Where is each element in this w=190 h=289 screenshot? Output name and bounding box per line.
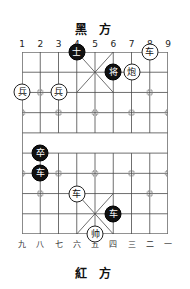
piece-glyph: 帅 (91, 230, 100, 239)
coordinate-label: 二 (146, 239, 154, 251)
piece-glyph: 车 (109, 209, 118, 218)
coordinate-label: 3 (56, 38, 62, 50)
piece-glyph: 车 (145, 48, 154, 57)
red-general[interactable]: 帅 (87, 226, 104, 243)
coordinate-label: 三 (128, 239, 136, 251)
piece-glyph: 炮 (127, 68, 136, 77)
red-side-title: 紅 方 (0, 264, 190, 281)
piece-glyph: 车 (36, 169, 45, 178)
black-chariot-1[interactable]: 车 (32, 165, 49, 182)
coordinate-label: 九 (18, 239, 26, 251)
piece-glyph: 兵 (18, 88, 27, 97)
coordinate-label: 2 (37, 38, 43, 50)
red-chariot-1[interactable]: 车 (141, 44, 158, 61)
black-general[interactable]: 将 (105, 64, 122, 81)
coordinate-label: 9 (165, 38, 171, 50)
red-soldier-2[interactable]: 兵 (50, 84, 67, 101)
black-chariot-2[interactable]: 车 (105, 205, 122, 222)
red-chariot-2[interactable]: 车 (68, 185, 85, 202)
coordinate-label: 八 (36, 239, 44, 251)
red-cannon[interactable]: 炮 (123, 64, 140, 81)
piece-glyph: 士 (72, 48, 81, 57)
black-soldier[interactable]: 卒 (32, 145, 49, 162)
coordinate-label: 1 (19, 38, 25, 50)
red-soldier-1[interactable]: 兵 (14, 84, 31, 101)
piece-glyph: 将 (109, 68, 118, 77)
coordinate-label: 六 (73, 239, 81, 251)
black-side-title: 黑 方 (0, 20, 190, 37)
coordinate-label: 七 (55, 239, 63, 251)
piece-glyph: 卒 (36, 149, 45, 158)
coordinate-label: 四 (109, 239, 117, 251)
coordinate-label: 7 (129, 38, 135, 50)
board-grid (22, 52, 168, 234)
coordinate-label: 6 (110, 38, 116, 50)
piece-glyph: 兵 (54, 88, 63, 97)
coordinate-label: 5 (92, 38, 98, 50)
coordinate-label: 一 (164, 239, 172, 251)
black-advisor[interactable]: 士 (68, 44, 85, 61)
piece-glyph: 车 (72, 189, 81, 198)
xiangqi-board[interactable]: 士车将炮兵兵卒车车车帅 (22, 52, 168, 234)
top-coordinate-row: 123456789 (0, 38, 190, 50)
